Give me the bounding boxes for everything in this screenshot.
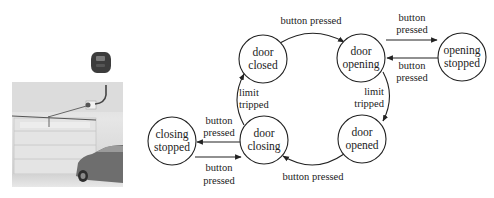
state-door-opened: door opened	[338, 115, 386, 163]
state-label: opened	[345, 139, 378, 152]
edge-label: tripped	[239, 99, 269, 110]
state-label: stopped	[154, 141, 190, 154]
state-label: door	[350, 45, 371, 57]
state-door-opening: door opening	[337, 34, 385, 82]
state-label: opening	[443, 44, 480, 57]
edge-label: pressed	[203, 175, 235, 186]
garage-remote-icon	[91, 52, 111, 73]
edge-label: button pressed	[283, 171, 345, 182]
state-closing-stopped: closing stopped	[148, 117, 196, 165]
state-label: stopped	[444, 57, 480, 70]
state-label: closing	[247, 140, 280, 153]
edge-label: tripped	[354, 98, 384, 109]
state-door-closed: door closed	[239, 35, 287, 83]
state-label: closed	[248, 59, 278, 71]
state-label: opening	[342, 58, 379, 71]
state-label: door	[351, 126, 372, 138]
state-door-closing: door closing	[240, 116, 288, 164]
edge-label: button	[206, 162, 234, 173]
edge-label: button	[399, 12, 427, 23]
edge-label: button pressed	[281, 15, 343, 26]
state-label: door	[253, 127, 274, 139]
state-diagram: button pressed button pressed button pre…	[0, 0, 494, 198]
edge-label: limit	[364, 86, 384, 97]
garage-photo	[12, 82, 123, 187]
edge-label: button	[206, 115, 234, 126]
state-opening-stopped: opening stopped	[438, 33, 486, 81]
edge-opened-to-closing	[283, 154, 344, 165]
state-label: door	[252, 46, 273, 58]
edge-label: limit	[239, 87, 259, 98]
edge-label: button	[399, 60, 427, 71]
edge-label: pressed	[396, 72, 428, 83]
edge-label: pressed	[203, 127, 235, 138]
state-label: closing	[155, 128, 188, 141]
edge-closed-to-opening	[280, 33, 344, 43]
edge-label: pressed	[396, 24, 428, 35]
